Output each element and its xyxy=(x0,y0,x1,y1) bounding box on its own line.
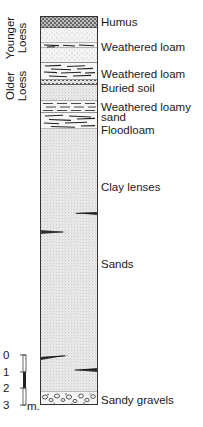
layer-younger-loess-upper xyxy=(41,28,97,43)
layer-sandy-gravels xyxy=(41,392,97,404)
label-weathered-loam-2: Weathered loam xyxy=(101,68,185,80)
scale-unit: m. xyxy=(27,400,40,412)
label-clay-lenses: Clay lenses xyxy=(101,181,160,193)
layer-buried-soil xyxy=(41,80,97,85)
layer-humus xyxy=(41,17,97,28)
label-buried-soil: Buried soil xyxy=(101,82,155,94)
layer-sands xyxy=(41,129,97,392)
scale-tick-2: 2 xyxy=(3,382,9,394)
layer-younger-loess-lower xyxy=(41,48,97,63)
younger-loess-label: Younger Loess xyxy=(4,14,28,62)
label-sandy-gravels: Sandy gravels xyxy=(101,394,174,406)
label-sands: Sands xyxy=(101,258,134,270)
layer-older-loess-body xyxy=(41,85,97,101)
older-loess-label: Older Loess xyxy=(4,64,28,108)
stratigraphic-column xyxy=(40,16,98,405)
label-humus: Humus xyxy=(101,16,137,28)
scale-tick-0: 0 xyxy=(3,349,9,361)
label-weathered-loam-1: Weathered loam xyxy=(101,41,185,53)
scale-tick-1: 1 xyxy=(3,366,9,378)
column-patterns xyxy=(41,17,97,404)
label-weathered-loamy-sand-line2: sand xyxy=(101,111,126,123)
label-floodloam: Floodloam xyxy=(101,124,155,136)
scale-tick-3: 3 xyxy=(3,399,9,411)
